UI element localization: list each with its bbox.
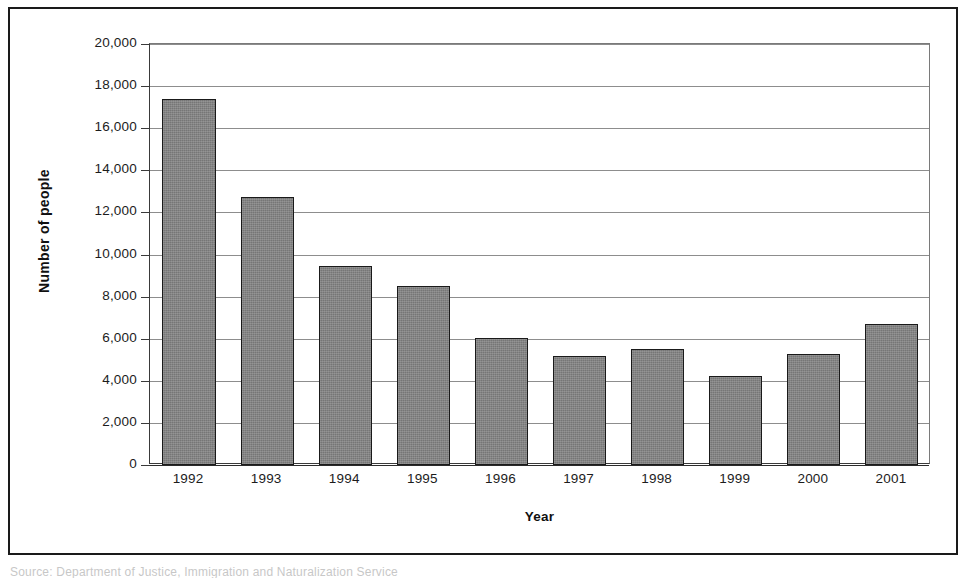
bar	[865, 324, 918, 465]
bar	[787, 354, 840, 465]
bar	[631, 349, 684, 465]
y-axis-tick-mark	[141, 170, 150, 171]
bar-chart: 20,00018,00016,00014,00012,00010,0008,00…	[10, 9, 960, 557]
y-axis-tick-mark	[141, 297, 150, 298]
bar	[319, 266, 372, 465]
gridline	[150, 465, 929, 466]
y-axis-tick-mark	[141, 44, 150, 45]
source-caption-text: Source: Department of Justice, Immigrati…	[10, 566, 710, 578]
x-axis-tick-label: 1993	[227, 472, 305, 486]
x-axis-tick-label: 2001	[852, 472, 930, 486]
y-axis-title: Number of people	[36, 31, 52, 431]
x-axis-title: Year	[149, 509, 930, 524]
gridline	[150, 170, 929, 171]
y-axis-tick-mark	[141, 212, 150, 213]
y-axis-tick-label: 0	[129, 457, 137, 471]
plot-area	[149, 43, 930, 464]
y-axis-tick-labels: 20,00018,00016,00014,00012,00010,0008,00…	[10, 43, 149, 464]
x-axis-tick-label: 2000	[774, 472, 852, 486]
y-axis-tick-mark	[141, 255, 150, 256]
x-axis-tick-labels: 1992199319941995199619971998199920002001	[149, 472, 930, 498]
gridline	[150, 86, 929, 87]
bar	[709, 376, 762, 465]
y-axis-tick-mark	[141, 128, 150, 129]
y-axis-tick-label: 8,000	[102, 289, 137, 303]
x-axis-tick-label: 1998	[618, 472, 696, 486]
gridline	[150, 44, 929, 45]
x-axis-tick-label: 1992	[149, 472, 227, 486]
y-axis-tick-mark	[141, 381, 150, 382]
x-axis-tick-label: 1999	[696, 472, 774, 486]
y-axis-tick-label: 6,000	[102, 331, 137, 345]
bar	[162, 99, 215, 465]
bar	[553, 356, 606, 465]
y-axis-tick-mark	[141, 423, 150, 424]
figure-frame: 20,00018,00016,00014,00012,00010,0008,00…	[8, 7, 958, 555]
x-axis-tick-label: 1996	[461, 472, 539, 486]
y-axis-tick-label: 14,000	[95, 162, 138, 176]
gridline	[150, 128, 929, 129]
y-axis-tick-label: 20,000	[95, 36, 138, 50]
x-axis-tick-label: 1995	[383, 472, 461, 486]
bar	[475, 338, 528, 465]
bar	[241, 197, 294, 465]
y-axis-tick-mark	[141, 465, 150, 466]
y-axis-tick-label: 18,000	[95, 78, 138, 92]
y-axis-tick-label: 16,000	[95, 120, 138, 134]
y-axis-tick-mark	[141, 86, 150, 87]
x-axis-tick-label: 1997	[540, 472, 618, 486]
source-caption-clipped: Source: Department of Justice, Immigrati…	[10, 566, 710, 578]
y-axis-tick-label: 10,000	[95, 247, 138, 261]
y-axis-tick-label: 2,000	[102, 415, 137, 429]
y-axis-tick-mark	[141, 339, 150, 340]
y-axis-tick-label: 12,000	[95, 204, 138, 218]
x-axis-tick-label: 1994	[305, 472, 383, 486]
bar	[397, 286, 450, 465]
y-axis-tick-label: 4,000	[102, 373, 137, 387]
